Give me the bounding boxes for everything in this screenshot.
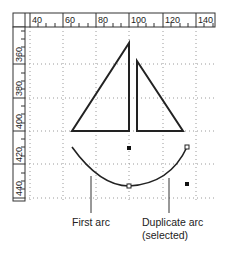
arc-control-handle[interactable] — [185, 182, 189, 186]
right-triangle[interactable] — [137, 61, 183, 131]
grid — [25, 27, 215, 200]
ruler-label-360: 360 — [14, 47, 24, 62]
duplicate-arc[interactable] — [129, 147, 187, 186]
ruler-label-80: 80 — [98, 15, 108, 25]
ruler-label-140: 140 — [198, 15, 213, 25]
arc-control-handle[interactable] — [127, 146, 131, 150]
ruler-label-440: 440 — [14, 181, 24, 196]
ruler-label-100: 100 — [131, 15, 146, 25]
first-arc-label: First arc — [72, 216, 110, 229]
ruler-label-120: 120 — [165, 15, 180, 25]
ruler-label-60: 60 — [65, 15, 75, 25]
arc-endpoint-handle[interactable] — [127, 184, 131, 188]
duplicate-arc-label: Duplicate arc (selected) — [142, 216, 203, 242]
first-arc[interactable] — [72, 147, 129, 186]
duplicate-arc-label-line2: (selected) — [142, 229, 203, 242]
vertical-ruler[interactable]: 360 380 400 420 440 — [13, 27, 25, 201]
ruler-label-40: 40 — [32, 15, 42, 25]
ruler-label-380: 380 — [14, 81, 24, 96]
left-triangle[interactable] — [72, 43, 129, 131]
ruler-label-420: 420 — [14, 147, 24, 162]
horizontal-ruler[interactable]: 40 60 80 100 120 140 — [13, 13, 215, 27]
ruler-label-400: 400 — [14, 114, 24, 129]
duplicate-arc-label-line1: Duplicate arc — [142, 216, 203, 229]
arc-endpoint-handle[interactable] — [185, 145, 189, 149]
